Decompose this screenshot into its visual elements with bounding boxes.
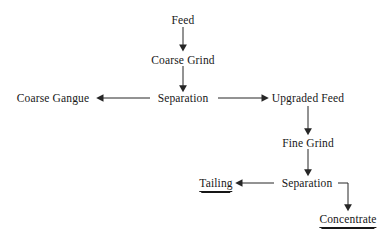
flowchart-edges [0, 0, 386, 241]
node-separation-first: Separation [158, 92, 209, 105]
node-tailing: Tailing [199, 177, 232, 192]
node-upgraded-feed: Upgraded Feed [272, 92, 345, 105]
edge-separation-to-coarse-gangue [96, 94, 150, 101]
node-coarse-gangue: Coarse Gangue [17, 92, 90, 105]
edge-feed-to-coarse-grind [179, 27, 187, 52]
node-feed: Feed [172, 14, 195, 27]
edge-upgraded-feed-to-fine-grind [304, 106, 312, 135]
edge-separation-to-upgraded-feed [218, 94, 269, 101]
node-concentrate: Concentrate [319, 213, 376, 228]
edge-separation-to-tailing [235, 179, 274, 186]
node-coarse-grind: Coarse Grind [151, 54, 214, 67]
node-separation-second: Separation [282, 177, 333, 190]
flowchart-diagram: Feed Coarse Grind Coarse Gangue Separati… [0, 0, 386, 241]
edge-fine-grind-to-separation [304, 149, 312, 176]
edge-coarse-grind-to-separation [179, 66, 187, 92]
edge-separation-to-concentrate [338, 183, 352, 211]
node-fine-grind: Fine Grind [282, 137, 334, 150]
